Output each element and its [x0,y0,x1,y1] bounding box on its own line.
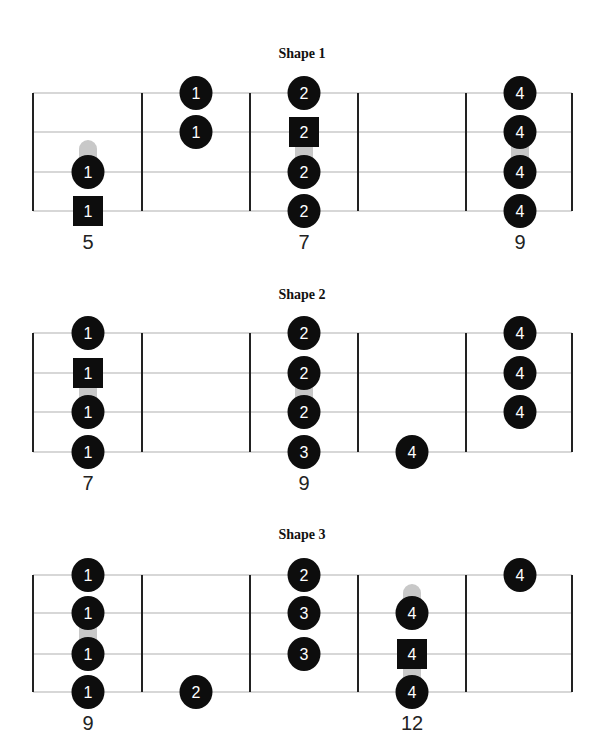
note-marker: 4 [504,115,537,149]
finger-number: 2 [300,203,309,220]
note-marker: 2 [288,194,321,228]
finger-number: 4 [516,85,525,102]
note-marker: 4 [504,558,537,592]
finger-number: 4 [408,605,417,622]
finger-number: 3 [300,444,309,461]
diagram-title: Shape 1 [278,46,325,61]
note-marker: 1 [72,316,105,350]
finger-number: 1 [84,646,93,663]
diagram-title: Shape 3 [278,527,325,542]
note-marker: 2 [288,316,321,350]
note-marker: 3 [288,596,321,630]
fretboard-diagram-2: Shape 211112223444479 [33,287,572,494]
note-marker: 4 [504,194,537,228]
finger-number: 3 [300,605,309,622]
note-marker: 2 [288,356,321,390]
note-marker: 2 [288,558,321,592]
note-marker: 4 [396,596,429,630]
note-marker: 2 [288,395,321,429]
note-marker: 1 [72,395,105,429]
note-marker: 2 [288,76,321,110]
finger-number: 4 [516,164,525,181]
finger-number: 4 [516,124,525,141]
root-note-marker: 1 [73,358,103,388]
fret-number-label: 9 [514,231,525,253]
fret-number-label: 9 [82,712,93,734]
finger-number: 4 [408,684,417,701]
note-marker: 1 [180,115,213,149]
note-marker: 1 [72,637,105,671]
finger-number: 4 [516,325,525,342]
finger-number: 4 [516,365,525,382]
fret-number-label: 7 [298,231,309,253]
note-marker: 4 [504,76,537,110]
root-note-marker: 4 [397,639,427,669]
finger-number: 3 [300,646,309,663]
finger-number: 1 [84,404,93,421]
note-marker: 4 [396,435,429,469]
finger-number: 4 [408,646,417,663]
finger-number: 2 [300,164,309,181]
finger-number: 2 [300,365,309,382]
finger-number: 2 [192,684,201,701]
note-marker: 1 [72,675,105,709]
finger-number: 1 [84,365,93,382]
finger-number: 2 [300,124,309,141]
finger-number: 1 [192,124,201,141]
note-marker: 1 [72,435,105,469]
diagram-title: Shape 2 [278,287,325,302]
finger-number: 1 [84,605,93,622]
note-marker: 1 [72,155,105,189]
note-marker: 3 [288,435,321,469]
finger-number: 1 [84,567,93,584]
finger-number: 1 [84,444,93,461]
scale-shapes-diagram: Shape 1111122224444579Shape 211112223444… [0,0,604,754]
note-marker: 2 [288,155,321,189]
finger-number: 1 [84,164,93,181]
finger-number: 1 [84,684,93,701]
note-marker: 4 [504,356,537,390]
fret-number-label: 7 [82,472,93,494]
fretboard-diagram-3: Shape 3111122334444912 [33,527,572,734]
note-marker: 3 [288,637,321,671]
note-marker: 1 [180,76,213,110]
fret-number-label: 9 [298,472,309,494]
note-marker: 4 [396,675,429,709]
finger-number: 1 [84,203,93,220]
note-marker: 4 [504,316,537,350]
note-marker: 4 [504,395,537,429]
note-marker: 2 [180,675,213,709]
note-marker: 4 [504,155,537,189]
finger-number: 2 [300,567,309,584]
note-marker: 1 [72,596,105,630]
finger-number: 1 [192,85,201,102]
fret-number-label: 5 [82,231,93,253]
finger-number: 4 [408,444,417,461]
finger-number: 2 [300,325,309,342]
finger-number: 4 [516,203,525,220]
fret-number-label: 12 [401,712,423,734]
finger-number: 4 [516,404,525,421]
root-note-marker: 2 [289,117,319,147]
root-note-marker: 1 [73,196,103,226]
fretboard-diagram-1: Shape 1111122224444579 [33,46,572,253]
finger-number: 4 [516,567,525,584]
finger-number: 2 [300,404,309,421]
finger-number: 2 [300,85,309,102]
finger-number: 1 [84,325,93,342]
note-marker: 1 [72,558,105,592]
